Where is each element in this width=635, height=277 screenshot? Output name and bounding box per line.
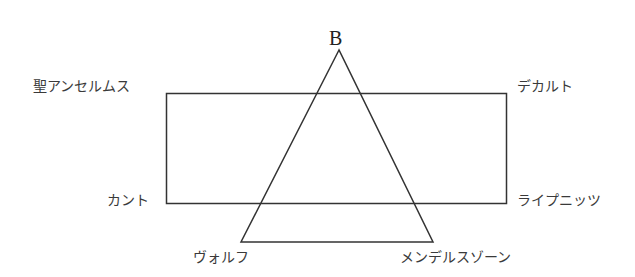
label-mendelssohn: メンデルスゾーン xyxy=(400,250,511,264)
label-leibniz: ライプニッツ xyxy=(517,193,601,207)
diagram-canvas xyxy=(0,0,635,277)
triangle xyxy=(241,50,433,242)
label-descartes: デカルト xyxy=(517,79,573,93)
label-kant: カント xyxy=(107,193,149,207)
label-wolff: ヴォルフ xyxy=(193,250,249,264)
label-st-anselm: 聖アンセルムス xyxy=(33,79,130,93)
rectangle xyxy=(167,94,507,204)
apex-label-b: B xyxy=(329,28,342,48)
